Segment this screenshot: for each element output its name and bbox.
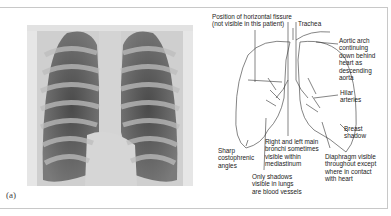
chest-line-diagram (0, 0, 391, 216)
leader-hilar (314, 95, 338, 98)
fissure-line (248, 80, 282, 82)
leader-costophrenic (246, 140, 248, 146)
leader-aortic (316, 42, 338, 44)
label-horizontal-fissure: Position of horizontal fissure (not visi… (212, 13, 292, 28)
label-costophrenic-angles: Sharp costophrenic angles (218, 147, 254, 169)
label-diaphragm: Diaphragm visible throughout except wher… (325, 153, 376, 183)
label-hilar-arteries: Hilar arteries (340, 89, 361, 104)
aortic-arch-outline (296, 32, 330, 40)
label-breast-shadow: Breast shadow (344, 125, 366, 140)
label-blood-vessels: Only shadows visible in lungs are blood … (252, 173, 302, 195)
label-aortic-arch: Aortic arch continuing down behind heart… (339, 37, 375, 81)
right-lung-outline (236, 41, 290, 148)
label-trachea: Trachea (298, 20, 321, 27)
hilar-vessels-left (266, 78, 280, 106)
trachea-outline (288, 22, 296, 80)
bronchi-outline (276, 80, 308, 98)
hilar-vessels-right (306, 78, 320, 112)
label-main-bronchi: Right and left main bronchi sometimes vi… (265, 138, 319, 168)
